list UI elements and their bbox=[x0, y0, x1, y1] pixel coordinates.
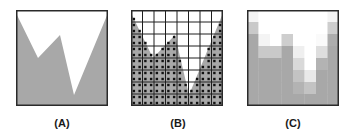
panel-b-label: (B) bbox=[148, 117, 208, 129]
panel-a-continuous-shape bbox=[16, 10, 108, 106]
panel-c-antialiased-grid bbox=[247, 10, 339, 106]
panel-b-sampled-grid bbox=[131, 10, 223, 106]
panel-a-label: (A) bbox=[32, 117, 92, 129]
panel-c-label: (C) bbox=[263, 117, 323, 129]
